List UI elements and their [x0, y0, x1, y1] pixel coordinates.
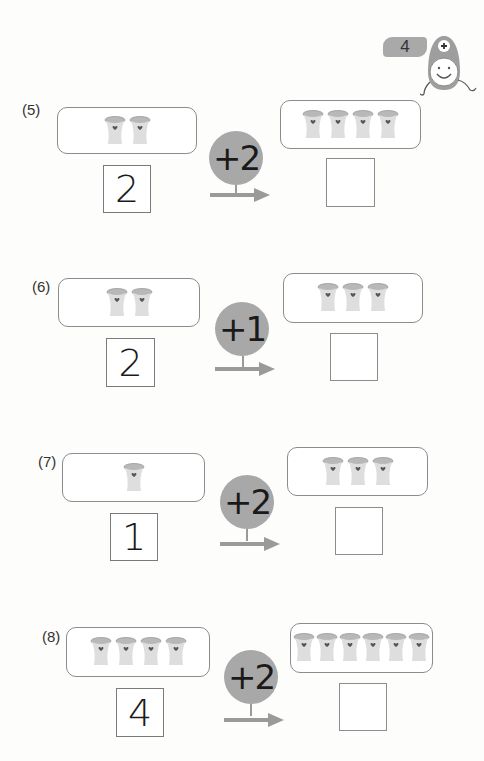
cup-with-heart-icon — [90, 637, 112, 667]
cup-with-heart-icon — [327, 110, 349, 140]
answer-box[interactable] — [330, 333, 378, 381]
cup-with-heart-icon — [316, 633, 338, 663]
cup-with-heart-icon — [339, 633, 361, 663]
start-number-box: 4 — [116, 688, 164, 737]
cup-with-heart-icon — [293, 633, 315, 663]
cup-with-heart-icon — [347, 457, 369, 487]
problem-label: (8) — [42, 628, 60, 645]
answer-box[interactable] — [335, 507, 383, 555]
plus-mascot-icon — [420, 32, 480, 97]
cup-with-heart-icon — [408, 633, 430, 663]
cup-with-heart-icon — [106, 288, 128, 318]
answer-box[interactable] — [326, 158, 375, 207]
cup-with-heart-icon — [367, 283, 389, 313]
right-arrow-icon — [210, 188, 270, 202]
operator-circle: +2 — [209, 131, 263, 185]
right-arrow-icon — [220, 537, 280, 551]
operator-circle: +2 — [220, 475, 274, 529]
start-group-box — [57, 107, 197, 154]
cup-with-heart-icon — [131, 288, 153, 318]
cup-with-heart-icon — [129, 116, 151, 146]
start-number-box: 2 — [103, 165, 151, 213]
end-group-box — [283, 273, 423, 323]
end-group-box — [287, 447, 428, 496]
problem-label: (6) — [32, 278, 50, 295]
cup-with-heart-icon — [302, 110, 324, 140]
start-group-box — [58, 278, 200, 327]
operator-circle: +2 — [224, 650, 278, 704]
cup-with-heart-icon — [322, 457, 344, 487]
right-arrow-icon — [224, 713, 284, 727]
problem-label: (5) — [22, 101, 40, 118]
cup-with-heart-icon — [352, 110, 374, 140]
cup-with-heart-icon — [140, 637, 162, 667]
cup-with-heart-icon — [317, 283, 339, 313]
right-arrow-icon — [215, 362, 275, 376]
start-group-box — [66, 627, 210, 677]
cup-with-heart-icon — [115, 637, 137, 667]
start-group-box — [62, 453, 205, 502]
cup-with-heart-icon — [123, 463, 145, 493]
end-group-box — [290, 623, 433, 673]
end-group-box — [280, 100, 421, 149]
answer-box[interactable] — [339, 683, 387, 731]
cup-with-heart-icon — [362, 633, 384, 663]
cup-with-heart-icon — [165, 637, 187, 667]
start-number-box: 2 — [106, 338, 155, 387]
cup-with-heart-icon — [342, 283, 364, 313]
cup-with-heart-icon — [104, 116, 126, 146]
operator-circle: +1 — [215, 302, 269, 356]
problem-label: (7) — [38, 453, 56, 470]
cup-with-heart-icon — [385, 633, 407, 663]
cup-with-heart-icon — [372, 457, 394, 487]
cup-with-heart-icon — [377, 110, 399, 140]
start-number-box: 1 — [110, 513, 158, 561]
